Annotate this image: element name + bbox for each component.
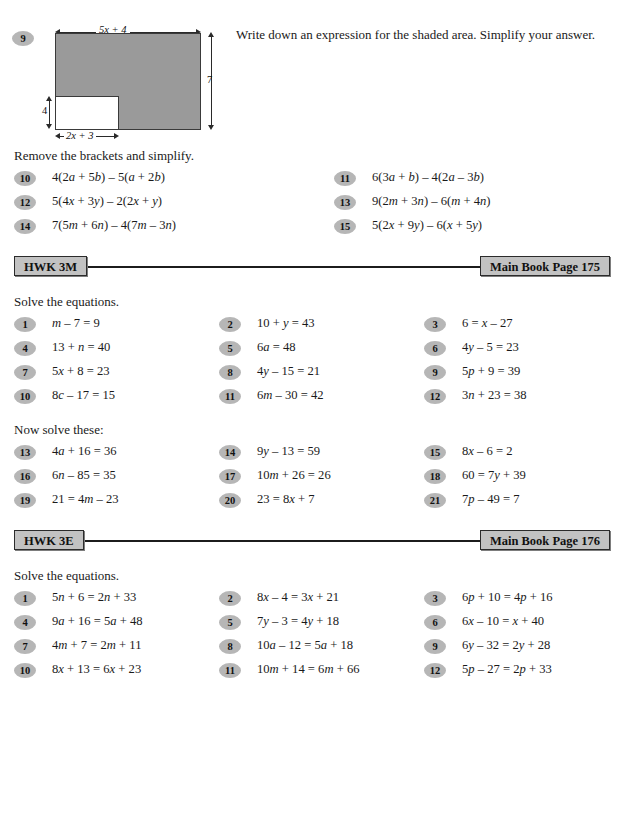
- list-item: 13 9(2m + 3n) – 6(m + 4n): [320, 194, 624, 209]
- list-item: 19 21 = 4m – 23: [0, 492, 205, 507]
- item-number: 9: [424, 365, 446, 380]
- item-number: 15: [334, 219, 356, 234]
- item-number: 12: [424, 663, 446, 678]
- list-item: 1 5n + 6 = 2n + 33: [0, 590, 205, 605]
- item-expression: 4m + 7 = 2m + 11: [52, 638, 141, 653]
- list-item: 15 5(2x + 9y) – 6(x + 5y): [320, 218, 624, 233]
- item-number: 16: [14, 469, 36, 484]
- list-item: 3 6p + 10 = 4p + 16: [410, 590, 624, 605]
- left-arrowhead-top-icon: [46, 96, 52, 101]
- bottom-arrowhead-right-icon: [114, 133, 119, 139]
- list-item: 17 10m + 26 = 26: [205, 468, 410, 483]
- question-number-badge: 9: [12, 31, 34, 46]
- item-expression: 60 = 7y + 39: [462, 468, 526, 483]
- list-item: 6 4y – 5 = 23: [410, 340, 624, 355]
- list-item: 9 6y – 32 = 2y + 28: [410, 638, 624, 653]
- item-expression: 9y – 13 = 59: [257, 444, 320, 459]
- item-expression: 8x – 4 = 3x + 21: [257, 590, 339, 605]
- left-arrowhead-bottom-icon: [46, 124, 52, 129]
- item-expression: 10m + 26 = 26: [257, 468, 331, 483]
- right-arrowhead-bottom-icon: [208, 125, 214, 130]
- item-number: 21: [424, 493, 446, 508]
- list-item: 12 3n + 23 = 38: [410, 388, 624, 403]
- item-expression: 5(4x + 3y) – 2(2x + y): [52, 194, 162, 209]
- item-number: 4: [14, 615, 36, 630]
- item-number: 5: [219, 341, 241, 356]
- item-expression: 8x + 13 = 6x + 23: [52, 662, 141, 677]
- list-item: 14 9y – 13 = 59: [205, 444, 410, 459]
- item-number: 3: [424, 317, 446, 332]
- item-expression: 13 + n = 40: [52, 340, 110, 355]
- spacer: [0, 516, 624, 530]
- hwk-3e-section: Solve the equations. 1 5n + 6 = 2n + 33 …: [0, 568, 624, 686]
- item-expression: 7y – 3 = 4y + 18: [257, 614, 339, 629]
- item-expression: 6x – 10 = x + 40: [462, 614, 544, 629]
- list-item: 10 4(2a + 5b) – 5(a + 2b): [0, 170, 320, 185]
- item-expression: 9a + 16 = 5a + 48: [52, 614, 143, 629]
- item-expression: 23 = 8x + 7: [257, 492, 315, 507]
- hwk-code-badge: HWK 3E: [14, 530, 84, 550]
- item-number: 1: [14, 591, 36, 606]
- item-number: 8: [219, 365, 241, 380]
- item-expression: 8c – 17 = 15: [52, 388, 115, 403]
- item-expression: 6(3a + b) – 4(2a – 3b): [372, 170, 484, 185]
- hwk-3e-item-grid: 1 5n + 6 = 2n + 33 2 8x – 4 = 3x + 21 3 …: [0, 590, 624, 686]
- list-item: 3 6 = x – 27: [410, 316, 624, 331]
- item-number: 10: [14, 171, 36, 186]
- list-item: 15 8x – 6 = 2: [410, 444, 624, 459]
- question-9-prompt: Write down an expression for the shaded …: [236, 26, 598, 44]
- list-item: 14 7(5m + 6n) – 4(7m – 3n): [0, 218, 320, 233]
- item-number: 20: [219, 493, 241, 508]
- list-item: 2 8x – 4 = 3x + 21: [205, 590, 410, 605]
- item-expression: 5(2x + 9y) – 6(x + 5y): [372, 218, 482, 233]
- item-expression: 10a – 12 = 5a + 18: [257, 638, 353, 653]
- item-expression: 21 = 4m – 23: [52, 492, 119, 507]
- item-expression: 3n + 23 = 38: [462, 388, 527, 403]
- list-item: 18 60 = 7y + 39: [410, 468, 624, 483]
- list-item: 11 10m + 14 = 6m + 66: [205, 662, 410, 677]
- item-number: 12: [424, 389, 446, 404]
- list-item: 16 6n – 85 = 35: [0, 468, 205, 483]
- brackets-item-grid: 10 4(2a + 5b) – 5(a + 2b) 11 6(3a + b) –…: [0, 170, 624, 242]
- item-number: 3: [424, 591, 446, 606]
- item-expression: 5n + 6 = 2n + 33: [52, 590, 136, 605]
- list-item: 11 6(3a + b) – 4(2a – 3b): [320, 170, 624, 185]
- item-expression: 6n – 85 = 35: [52, 468, 116, 483]
- item-number: 10: [14, 663, 36, 678]
- hwk-3e-instruction: Solve the equations.: [14, 568, 624, 584]
- list-item: 21 7p – 49 = 7: [410, 492, 624, 507]
- list-item: 2 10 + y = 43: [205, 316, 410, 331]
- brackets-section: Remove the brackets and simplify. 10 4(2…: [0, 148, 624, 242]
- main-book-page-badge: Main Book Page 175: [480, 256, 610, 276]
- hwk-3m-item-grid: 1 m – 7 = 9 2 10 + y = 43 3 6 = x – 27 4…: [0, 316, 624, 412]
- item-expression: 7(5m + 6n) – 4(7m – 3n): [52, 218, 176, 233]
- item-number: 11: [334, 171, 356, 186]
- item-expression: 4a + 16 = 36: [52, 444, 117, 459]
- item-number: 7: [14, 365, 36, 380]
- item-expression: 6m – 30 = 42: [257, 388, 324, 403]
- list-item: 10 8c – 17 = 15: [0, 388, 205, 403]
- list-item: 5 6a = 48: [205, 340, 410, 355]
- item-number: 4: [14, 341, 36, 356]
- item-expression: 7p – 49 = 7: [462, 492, 519, 507]
- item-number: 2: [219, 591, 241, 606]
- spacer: [0, 242, 624, 256]
- item-number: 8: [219, 639, 241, 654]
- item-expression: 4y – 15 = 21: [257, 364, 320, 379]
- item-expression: 6a = 48: [257, 340, 296, 355]
- list-item: 12 5p – 27 = 2p + 33: [410, 662, 624, 677]
- item-expression: 5p – 27 = 2p + 33: [462, 662, 552, 677]
- right-arrowhead-top-icon: [208, 32, 214, 37]
- item-expression: 9(2m + 3n) – 6(m + 4n): [372, 194, 491, 209]
- item-number: 2: [219, 317, 241, 332]
- list-item: 4 13 + n = 40: [0, 340, 205, 355]
- item-expression: 4y – 5 = 23: [462, 340, 519, 355]
- item-expression: m – 7 = 9: [52, 316, 100, 331]
- item-number: 19: [14, 493, 36, 508]
- worksheet-page: 9 5x + 4 7 4 2x + 3 Wr: [0, 0, 624, 839]
- item-number: 13: [334, 195, 356, 210]
- list-item: 7 5x + 8 = 23: [0, 364, 205, 379]
- list-item: 13 4a + 16 = 36: [0, 444, 205, 459]
- item-expression: 5x + 8 = 23: [52, 364, 110, 379]
- item-number: 1: [14, 317, 36, 332]
